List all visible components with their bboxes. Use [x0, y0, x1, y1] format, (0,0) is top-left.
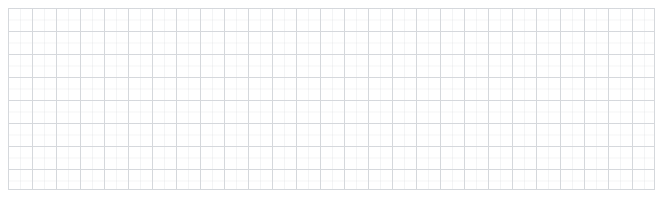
grid-surface[interactable] [8, 8, 655, 190]
grid-empty-content-label [8, 8, 654, 189]
empty-grid-canvas [0, 0, 664, 202]
